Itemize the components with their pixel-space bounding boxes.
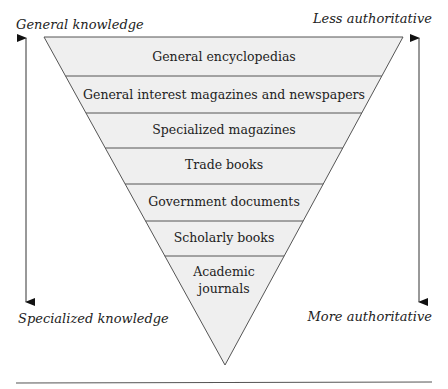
level-academic-journals-line2: journals xyxy=(198,281,249,297)
label-more-authoritative: More authoritative xyxy=(308,309,433,324)
level-specialized-magazines: Specialized magazines xyxy=(152,122,296,138)
level-general-interest-magazines: General interest magazines and newspaper… xyxy=(83,87,365,103)
level-government-documents: Government documents xyxy=(148,194,300,210)
level-general-encyclopedias: General encyclopedias xyxy=(152,49,296,65)
level-scholarly-books: Scholarly books xyxy=(174,230,275,246)
label-specialized-knowledge: Specialized knowledge xyxy=(18,311,169,326)
label-less-authoritative: Less authoritative xyxy=(313,11,432,26)
level-academic-journals-line1: Academic xyxy=(193,264,255,280)
bottom-rule xyxy=(16,382,432,383)
level-trade-books: Trade books xyxy=(185,157,263,173)
label-general-knowledge: General knowledge xyxy=(16,17,144,32)
